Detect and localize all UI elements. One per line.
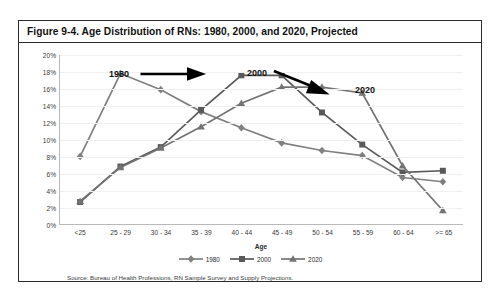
data-point-marker [319, 109, 325, 115]
x-axis-tick: 55 - 59 [353, 229, 374, 236]
legend-marker-square [229, 254, 255, 264]
figure-page: Figure 9-4. Age Distribution of RNs: 198… [0, 0, 500, 299]
annotation-1980: 1980 [109, 69, 129, 79]
data-point-marker [187, 255, 194, 263]
data-point-marker [359, 142, 365, 148]
y-axis-tick: 20% [43, 52, 56, 59]
gridline [60, 208, 463, 209]
page-title: Figure 9-4. Age Distribution of RNs: 198… [19, 26, 358, 37]
legend-item-1980[interactable]: 1980 [178, 254, 220, 264]
y-axis-tick: 6% [46, 171, 56, 178]
data-point-marker [279, 72, 285, 78]
legend-label: 1980 [206, 256, 220, 263]
x-axis-tick: 45 - 49 [272, 229, 293, 236]
gridline [60, 174, 463, 175]
data-point-marker [399, 162, 407, 169]
data-point-marker [440, 168, 446, 174]
x-axis-label: Age [59, 243, 463, 250]
legend-marker-triangle [280, 254, 306, 264]
source-note: Source: Bureau of Health Professions, RN… [67, 274, 293, 281]
x-axis-tick: 50 - 54 [312, 229, 333, 236]
chart-legend: 198020002020 [19, 254, 481, 264]
gridline [60, 55, 463, 56]
data-point-marker [359, 152, 366, 160]
legend-item-2000[interactable]: 2000 [229, 254, 271, 264]
plot-area: 0%2%4%6%8%10%12%14%16%18%20%<2525 - 2930… [59, 55, 463, 225]
annotation-2000: 2000 [247, 68, 267, 78]
gridline [60, 157, 463, 158]
annotation-2020: 2020 [355, 85, 375, 95]
data-point-marker [319, 147, 326, 155]
data-point-marker [238, 72, 244, 78]
y-axis-tick: 14% [43, 103, 56, 110]
gridline [60, 191, 463, 192]
legend-marker-diamond [178, 254, 204, 264]
y-axis-tick: 0% [46, 222, 56, 229]
chart-area: 0%2%4%6%8%10%12%14%16%18%20%<2525 - 2930… [19, 43, 481, 282]
y-axis-tick: 16% [43, 86, 56, 93]
gridline [60, 123, 463, 124]
y-axis-tick: 10% [43, 137, 56, 144]
x-axis-tick: 35 - 39 [191, 229, 212, 236]
x-axis-tick: 40 - 44 [232, 229, 253, 236]
x-axis-tick: <25 [75, 229, 86, 236]
x-axis-tick: 60 - 64 [393, 229, 414, 236]
x-axis-tick: >= 65 [435, 229, 452, 236]
data-point-marker [238, 124, 245, 132]
data-point-marker [198, 107, 204, 113]
data-point-marker [239, 256, 245, 262]
data-point-marker [197, 123, 205, 130]
gridline [60, 140, 463, 141]
y-axis-tick: 4% [46, 188, 56, 195]
legend-label: 2000 [257, 256, 271, 263]
figure-title-bar: Figure 9-4. Age Distribution of RNs: 198… [19, 21, 481, 43]
y-axis-tick: 8% [46, 154, 56, 161]
y-axis-tick: 12% [43, 120, 56, 127]
gridline [60, 106, 463, 107]
y-axis-tick: 18% [43, 69, 56, 76]
x-axis-tick: 25 - 29 [110, 229, 131, 236]
x-axis-tick: 30 - 34 [151, 229, 172, 236]
legend-label: 2020 [308, 256, 322, 263]
gridline [60, 89, 463, 90]
data-point-marker [439, 178, 446, 186]
y-axis-tick: 2% [46, 205, 56, 212]
figure-frame: Figure 9-4. Age Distribution of RNs: 198… [18, 20, 482, 282]
legend-item-2020[interactable]: 2020 [280, 254, 322, 264]
